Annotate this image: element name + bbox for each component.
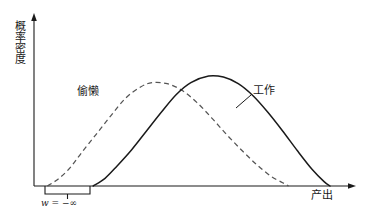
- probability-density-figure: 概率密度 产出 偷懒 工作 w = −∞: [0, 0, 371, 218]
- wage-bracket: [45, 186, 90, 194]
- density-curve-work: [93, 76, 330, 186]
- x-axis-label: 产出: [311, 186, 333, 202]
- work-label-leader-line: [236, 95, 251, 108]
- curve-label-work: 工作: [253, 81, 275, 97]
- curve-label-shirk: 偷懒: [77, 82, 99, 98]
- y-axis-label: 概率密度: [13, 20, 25, 64]
- x-axis-arrow-icon: [348, 183, 356, 189]
- y-axis-arrow-icon: [31, 13, 37, 21]
- wage-annotation-label: w = −∞: [41, 198, 77, 208]
